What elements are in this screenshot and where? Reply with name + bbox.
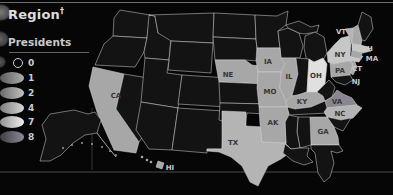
legend-swatch-icon (0, 72, 24, 84)
aleutian-island-dot (81, 142, 83, 144)
state-michigan[interactable] (304, 32, 327, 62)
legend-value: 1 (28, 71, 34, 85)
presidents-legend: 012478 (0, 0, 60, 195)
state-hawaii[interactable] (156, 161, 164, 169)
aleutian-island-dot (109, 150, 111, 152)
state-label-kentucky: KY (297, 98, 308, 106)
hawaiian-island-dot (146, 159, 149, 162)
state-new-mexico[interactable] (172, 108, 224, 153)
legend-item-0[interactable]: 0 (0, 56, 60, 70)
state-label-massachusetts: MA (366, 55, 379, 63)
legend-swatch-icon (0, 131, 24, 143)
state-label-north-carolina: NC (335, 110, 346, 118)
state-label-connecticut: CT (352, 65, 362, 73)
dashboard-screen: CANETXIAMOILOHKYVANCGAAKNYVTNHMACTNJPAHI… (0, 0, 393, 195)
legend-swatch-icon (13, 58, 23, 68)
state-arizona[interactable] (136, 102, 178, 150)
legend-value: 8 (28, 130, 34, 144)
state-label-pennsylvania: PA (335, 67, 345, 75)
state-label-georgia: GA (317, 128, 329, 136)
state-label-texas: TX (228, 139, 239, 147)
state-maryland[interactable] (331, 75, 353, 85)
legend-item-2[interactable]: 2 (0, 86, 60, 100)
state-label-new-hampshire: NH (361, 45, 373, 53)
state-label-california: CA (111, 92, 122, 100)
legend-value: 2 (28, 86, 34, 100)
legend-value: 7 (28, 115, 34, 129)
aleutian-island-dot (101, 146, 103, 148)
state-label-new-jersey: NJ (352, 78, 360, 86)
legend-item-8[interactable]: 8 (0, 130, 60, 144)
state-oregon[interactable] (95, 36, 147, 67)
state-label-illinois: IL (285, 73, 293, 81)
state-label-iowa: IA (264, 58, 273, 66)
aleutian-island-dot (91, 143, 93, 145)
aleutian-island-dot (71, 144, 73, 146)
state-label-arkansas: AK (268, 119, 279, 127)
legend-item-4[interactable]: 4 (0, 101, 60, 115)
title-dagger: † (60, 7, 64, 16)
legend-swatch-icon (0, 116, 24, 128)
state-south-dakota[interactable] (213, 37, 258, 61)
hawaiian-island-dot (150, 161, 153, 164)
state-florida[interactable] (311, 145, 343, 182)
state-label-missouri: MO (264, 88, 277, 96)
legend-item-7[interactable]: 7 (0, 115, 60, 129)
hawaiian-island-dot (141, 156, 144, 159)
legend-value: 4 (28, 101, 34, 115)
legend-item-1[interactable]: 1 (0, 71, 60, 85)
aleutian-island-dot (62, 147, 64, 149)
state-label-hawaii: HI (166, 164, 174, 172)
aleutian-island-dot (115, 154, 117, 156)
state-washington[interactable] (113, 10, 150, 38)
state-label-new-york: NY (335, 51, 347, 59)
legend-swatch-icon (0, 102, 24, 114)
state-label-virginia: VA (332, 98, 343, 106)
state-label-ohio: OH (310, 72, 322, 80)
state-north-dakota[interactable] (213, 13, 256, 39)
legend-value: 0 (28, 56, 34, 70)
state-wyoming[interactable] (168, 41, 213, 73)
state-label-vermont: VT (336, 28, 346, 36)
state-label-nebraska: NE (223, 71, 234, 79)
legend-swatch-icon (0, 87, 24, 99)
